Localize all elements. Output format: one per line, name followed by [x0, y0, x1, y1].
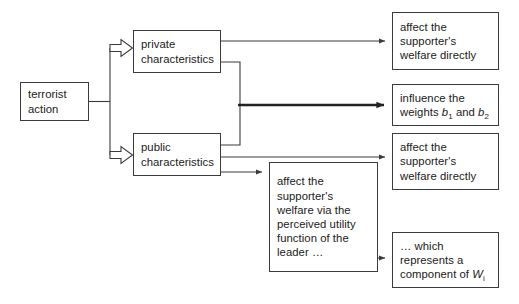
- node-affect-welfare-directly-top-label: affect the supporter's welfare directly: [393, 20, 483, 63]
- node-public-characteristics-label: public characteristics: [134, 140, 221, 168]
- node-terrorist-action-label: terrorist action: [21, 87, 74, 115]
- node-affect-welfare-via-utility-label: affect the supporter's welfare via the p…: [270, 174, 363, 259]
- node-public-characteristics[interactable]: public characteristics: [133, 133, 221, 176]
- node-component-of-w[interactable]: … whichrepresents acomponent of Wi: [392, 232, 499, 288]
- node-affect-welfare-directly-bottom[interactable]: affect the supporter's welfare directly: [392, 133, 499, 190]
- node-private-characteristics[interactable]: private characteristics: [133, 30, 221, 73]
- node-affect-welfare-directly-top[interactable]: affect the supporter's welfare directly: [392, 12, 499, 70]
- edge-terrorist-to-private-arrow: [110, 40, 133, 57]
- node-component-of-w-label: … whichrepresents acomponent of Wi: [393, 239, 492, 282]
- edge-private-to-riser: [221, 62, 240, 105]
- node-affect-welfare-directly-bottom-label: affect the supporter's welfare directly: [393, 140, 483, 183]
- flow-diagram: terrorist action private characteristics…: [0, 0, 519, 304]
- node-affect-welfare-via-utility[interactable]: affect the supporter's welfare via the p…: [269, 162, 378, 272]
- node-influence-weights[interactable]: influence theweights b1 and b2: [392, 84, 499, 126]
- node-terrorist-action[interactable]: terrorist action: [20, 82, 89, 121]
- node-private-characteristics-label: private characteristics: [134, 37, 221, 65]
- edge-public-to-riser: [221, 105, 240, 145]
- edge-terrorist-to-public-arrow: [110, 147, 133, 164]
- node-influence-weights-label: influence theweights b1 and b2: [393, 91, 496, 119]
- edge-terrorist-trunk: [89, 48, 110, 155]
